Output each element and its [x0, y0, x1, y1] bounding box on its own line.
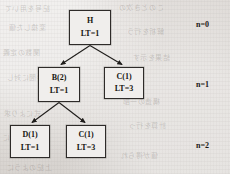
node-sublabel: LT=1 [21, 144, 40, 152]
bleed-text: 変換した値 [8, 22, 46, 32]
bleed-text: このとき次の [118, 2, 164, 12]
node-sublabel: LT=1 [81, 30, 100, 38]
bleed-text: 解析を行う [126, 26, 164, 36]
level-label-n1: n=1 [196, 80, 209, 89]
level-label-n0: n=0 [196, 20, 209, 29]
bleed-text: 関数の定義 [2, 47, 40, 57]
node-label: C(1) [78, 131, 93, 139]
node-sublabel: LT=1 [50, 87, 69, 95]
node-label: B(2) [52, 74, 67, 82]
node-sublabel: LT=3 [115, 85, 134, 93]
bleed-text: 計算を行っ [128, 120, 166, 130]
bleed-text: 式により求 [3, 108, 41, 118]
tree-node-d1[interactable]: D(1) LT=1 [10, 125, 50, 158]
tree-node-c1-level2[interactable]: C(1) LT=3 [66, 125, 106, 158]
edge-root-to-c1-level1 [90, 46, 122, 65]
node-label: C(1) [116, 73, 131, 81]
node-label: H [87, 17, 93, 25]
level-label-n2: n=2 [196, 141, 209, 150]
node-sublabel: LT=3 [77, 144, 96, 152]
node-label: D(1) [22, 131, 37, 139]
bleed-text: 値が得られ [120, 150, 158, 160]
bleed-text: 結果を示す [132, 52, 170, 62]
edge-b2-to-d1 [32, 103, 59, 123]
edge-b2-to-c1-level2 [59, 103, 85, 123]
tree-node-root[interactable]: H LT=1 [69, 10, 111, 45]
tree-node-b2[interactable]: B(2) LT=1 [38, 67, 80, 102]
edge-root-to-b2 [61, 46, 90, 65]
bleed-text: 記号を用いて [4, 3, 50, 13]
tree-diagram: 記号を用いて このとき次の 変換した値 解析を行う 関数の定義 結果を示す 時間… [0, 0, 230, 174]
tree-node-c1-level1[interactable]: C(1) LT=3 [104, 67, 144, 99]
bleed-text: 上記のように [6, 162, 52, 172]
